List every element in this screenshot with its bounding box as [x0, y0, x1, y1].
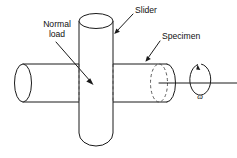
slider-body: [79, 21, 113, 146]
normal-load-label-line1: Normal: [43, 19, 71, 29]
specimen-label: Specimen: [162, 31, 200, 41]
slider-leader-line: [117, 14, 133, 31]
slider-top-rim: [79, 14, 113, 29]
slider-label: Slider: [135, 5, 157, 15]
specimen-arrowhead: [145, 56, 150, 62]
rotation-indicator-group: ω: [159, 64, 237, 101]
slider-cylinder: [79, 14, 113, 147]
specimen-leader-line: [148, 41, 160, 58]
specimen-leader-group: Specimen: [145, 31, 200, 61]
normal-load-label-line2: load: [49, 29, 65, 39]
wear-test-diagram: ω Normal load Slider Specimen: [0, 0, 237, 158]
diagram-canvas: ω Normal load Slider Specimen: [0, 0, 237, 158]
slider-leader-group: Slider: [114, 5, 157, 34]
angular-velocity-label: ω: [197, 92, 203, 101]
rotation-arrow-ellipse: [190, 64, 211, 95]
specimen-left-end-face: [15, 64, 32, 102]
